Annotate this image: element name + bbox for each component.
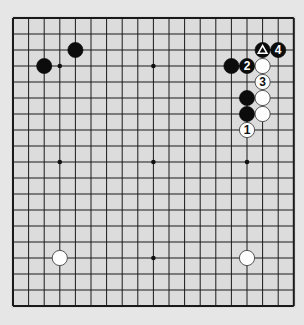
white-stone [255, 58, 270, 73]
white-stone: 1 [239, 122, 254, 137]
white-stone: 3 [255, 74, 270, 89]
black-stone [68, 42, 83, 57]
black-stone: 2 [239, 58, 254, 73]
star-point [151, 64, 156, 69]
move-number: 3 [259, 75, 266, 89]
black-stone [239, 90, 254, 105]
black-stone: 4 [271, 42, 286, 57]
go-board-canvas[interactable]: 4231 [0, 0, 304, 325]
move-number: 2 [244, 59, 251, 73]
white-stone [255, 106, 270, 121]
star-point [151, 256, 156, 261]
move-number: 4 [275, 43, 282, 57]
star-point [58, 64, 63, 69]
black-stone [37, 58, 52, 73]
move-number: 1 [244, 123, 251, 137]
black-stone [239, 106, 254, 121]
black-stone [255, 42, 270, 57]
go-board[interactable]: 4231 [0, 0, 304, 325]
black-stone [224, 58, 239, 73]
white-stone [239, 250, 254, 265]
white-stone [255, 90, 270, 105]
star-point [58, 160, 63, 165]
star-point [245, 160, 250, 165]
white-stone [52, 250, 67, 265]
star-point [151, 160, 156, 165]
